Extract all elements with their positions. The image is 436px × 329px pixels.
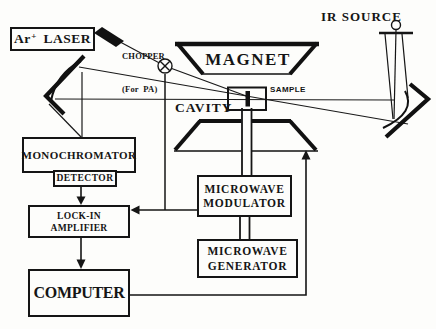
experimental-setup-diagram: Ar+LASER MONOCHROMATOR DETECTOR LOCK-IN … bbox=[0, 0, 436, 329]
modulator-label-line1: MICROWAVE bbox=[204, 182, 284, 197]
arrow-lockin-to-computer bbox=[77, 238, 86, 269]
microwave-modulator-box: MICROWAVE MODULATOR bbox=[197, 175, 292, 217]
waveguide-modulator-generator bbox=[240, 215, 251, 241]
generator-label-line1: MICROWAVE bbox=[207, 244, 287, 259]
monochromator-label: MONOCHROMATOR bbox=[22, 149, 137, 162]
sample-bar bbox=[246, 91, 251, 107]
chopper-label-line1: CHOPPER bbox=[122, 51, 165, 62]
lock-in-label-line2: AMPLIFIER bbox=[50, 222, 107, 234]
magnet-label: MAGNET bbox=[204, 50, 292, 70]
waveguide-cavity-modulator bbox=[242, 108, 253, 178]
chopper-label: CHOPPER (For PA) bbox=[122, 29, 165, 117]
lock-in-amplifier-box: LOCK-IN AMPLIFIER bbox=[28, 205, 130, 238]
laser-mirror-icon bbox=[94, 27, 124, 47]
generator-label-line2: GENERATOR bbox=[208, 259, 287, 274]
monochromator-box: MONOCHROMATOR bbox=[22, 137, 136, 173]
ir-source-label: IR SOURCE bbox=[321, 9, 402, 25]
ar-laser-label: Ar+LASER bbox=[14, 31, 91, 47]
ar-laser-box: Ar+LASER bbox=[10, 27, 95, 51]
detector-label: DETECTOR bbox=[56, 173, 113, 184]
chopper-label-line2: (For PA) bbox=[122, 84, 165, 95]
arrow-modulator-to-lockin bbox=[131, 206, 198, 215]
concave-mirror-right-icon bbox=[383, 84, 428, 137]
modulator-label-line2: MODULATOR bbox=[203, 196, 286, 211]
detector-box: DETECTOR bbox=[53, 170, 117, 187]
cavity-label: CAVITY bbox=[175, 100, 233, 116]
arrow-detector-to-lockin bbox=[77, 187, 86, 205]
microwave-generator-box: MICROWAVE GENERATOR bbox=[197, 239, 298, 278]
computer-box: COMPUTER bbox=[28, 269, 130, 317]
lock-in-label-line1: LOCK-IN bbox=[57, 210, 101, 222]
computer-label: COMPUTER bbox=[34, 284, 125, 302]
sample-label: SAMPLE bbox=[270, 85, 306, 94]
monochromator-beam-diagonal bbox=[49, 104, 82, 138]
concave-mirror-left-icon bbox=[46, 56, 84, 114]
laser-charge-superscript: + bbox=[31, 31, 37, 41]
